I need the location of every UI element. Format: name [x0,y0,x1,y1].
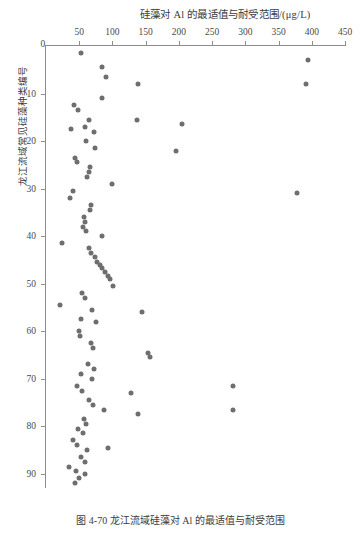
x-axis-tick [79,41,80,46]
data-point [82,124,87,129]
data-point [106,445,111,450]
data-point [100,96,105,101]
data-point [89,376,94,381]
x-axis-tick-label: 200 [172,27,186,37]
data-point [83,139,88,144]
data-point [83,295,88,300]
data-point [93,319,98,324]
x-axis-tick-label: 400 [305,27,319,37]
data-point [67,196,72,201]
data-point [75,108,80,113]
y-axis-tick [41,284,46,285]
data-point [85,447,90,452]
y-axis-tick [41,331,46,332]
data-point [230,407,235,412]
data-point [135,82,140,87]
x-axis-tick-label: 100 [105,27,119,37]
data-point [78,51,83,56]
y-axis-tick-label: 50 [27,279,37,289]
data-point [107,276,112,281]
data-point [85,174,90,179]
data-point [77,333,82,338]
x-axis-tick-label: 150 [139,27,153,37]
data-point [77,476,82,481]
data-point [102,407,107,412]
data-point [180,122,185,127]
data-point [93,146,98,151]
data-point [75,383,80,388]
data-point [90,345,95,350]
data-point [82,459,87,464]
data-point [74,443,79,448]
y-axis-tick [41,141,46,142]
y-axis-tick [41,189,46,190]
x-axis-tick [179,41,180,46]
y-axis-tick-label: 30 [27,184,37,194]
data-point [135,412,140,417]
figure-caption: 图 4-70 龙江流域硅藻对 Al 的最适值与耐受范围 [0,512,361,527]
data-point [59,241,64,246]
data-point [103,74,108,79]
plot-area: 0501001502002503003504004501020304050607… [45,45,345,488]
y-axis-tick [41,426,46,427]
x-axis-tick-label: 450 [338,27,352,37]
y-axis-tick [41,379,46,380]
data-point [87,207,92,212]
y-axis-title: 龙江流域常见硅藻种类编号 [18,51,29,201]
data-point [69,127,74,132]
data-point [80,431,85,436]
data-point [86,117,91,122]
data-point [174,148,179,153]
data-point [79,388,84,393]
data-point [295,191,300,196]
y-axis-tick [41,474,46,475]
data-point [75,426,80,431]
x-axis-tick [212,41,213,46]
data-point [72,481,77,486]
data-point [82,471,87,476]
y-axis-tick-label: 80 [27,421,37,431]
data-point [111,284,116,289]
data-point [231,383,236,388]
x-axis-tick [112,41,113,46]
x-axis-tick [345,41,346,46]
data-point [78,371,83,376]
data-point [129,390,134,395]
y-axis-tick-label: 20 [27,136,37,146]
x-axis-tick-label: 300 [238,27,252,37]
data-point [135,117,140,122]
x-axis-tick [146,41,147,46]
y-axis-tick [41,94,46,95]
x-axis-title: 硅藻对 Al 的最适值与耐受范围/(μg/L) [140,8,355,21]
data-point [148,355,153,360]
x-axis-tick-label: 250 [205,27,219,37]
data-point [91,129,96,134]
y-axis-tick-label: 90 [27,469,37,479]
data-point [57,303,62,308]
x-axis-tick [245,41,246,46]
data-point [67,464,72,469]
data-point [100,65,105,70]
data-point [109,181,114,186]
x-axis-tick-label: 350 [271,27,285,37]
data-point [85,362,90,367]
y-axis-tick [41,236,46,237]
data-point [90,402,95,407]
data-point [78,317,83,322]
data-point [83,421,88,426]
data-point [91,367,96,372]
data-point [73,469,78,474]
figure-container: 硅藻对 Al 的最适值与耐受范围/(μg/L) 龙江流域常见硅藻种类编号 050… [0,0,361,542]
y-axis-tick-label: 70 [27,374,37,384]
data-point [140,310,145,315]
data-point [70,188,75,193]
data-point [89,307,94,312]
data-point [304,82,309,87]
x-axis-tick-label: 50 [74,27,84,37]
y-axis-tick-label: 40 [27,231,37,241]
y-axis-tick-label: 60 [27,326,37,336]
data-point [306,58,311,63]
x-axis-tick-label: 0 [41,39,46,49]
data-point [99,234,104,239]
data-point [75,160,80,165]
